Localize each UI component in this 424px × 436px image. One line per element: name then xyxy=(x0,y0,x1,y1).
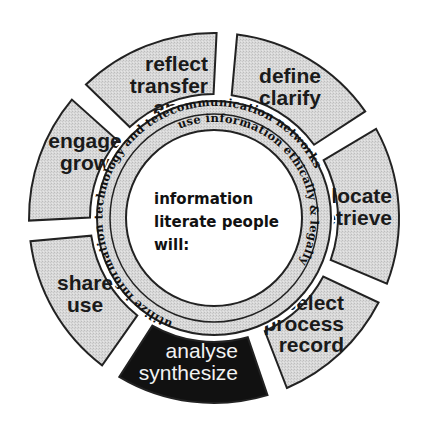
segment-reflect-label: transfer xyxy=(130,74,208,97)
segment-analyse-label: synthesize xyxy=(139,361,238,384)
segment-define-label: define xyxy=(259,64,321,87)
center-line-3: will: xyxy=(154,236,189,254)
segment-reflect-label: reflect xyxy=(145,52,208,75)
center-line-2: literate people xyxy=(154,213,279,231)
center-line-1: information xyxy=(154,190,253,208)
segment-analyse-label: analyse xyxy=(166,339,238,362)
segment-share-label: use xyxy=(67,293,103,316)
segment-engage-label: engage xyxy=(48,129,122,152)
info-literacy-wheel: defineclarifylocateretrieveselectprocess… xyxy=(0,0,424,436)
segment-select-label: record xyxy=(279,333,344,356)
segment-locate-label: locate xyxy=(331,184,392,207)
segment-share-label: share xyxy=(57,271,113,294)
segment-define-label: clarify xyxy=(259,86,321,109)
